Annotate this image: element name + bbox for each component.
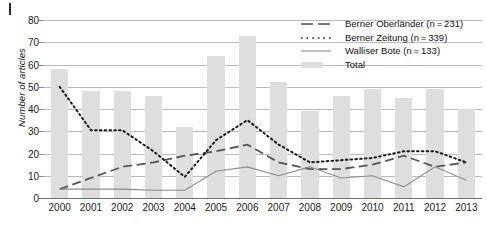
x-tick-label: 2006 <box>236 202 258 213</box>
x-tick-label: 2012 <box>424 202 446 213</box>
y-tick-label: 10 <box>28 170 39 181</box>
legend-item-walliser-bote: Walliser Bote (n = 133) <box>283 44 479 58</box>
x-tick-label: 2000 <box>49 202 71 213</box>
x-tick-label: 2009 <box>330 202 352 213</box>
x-tick-label: 2011 <box>393 202 415 213</box>
x-tick-label: 2010 <box>361 202 383 213</box>
x-axis-line <box>38 198 482 199</box>
legend-item-berner-oberlaender: Berner Oberländer (n = 231) <box>283 17 479 31</box>
crop-mark-icon <box>9 3 11 15</box>
x-tick-label: 2007 <box>268 202 290 213</box>
dotted-line-key <box>283 31 339 45</box>
chart-figure: Number of articles 01020304050607080 200… <box>0 0 487 240</box>
legend-item-total: Total <box>283 58 479 72</box>
legend-label: Berner Oberländer (n = 231) <box>339 18 463 29</box>
x-tick-label: 2013 <box>455 202 477 213</box>
solid-line-key <box>283 44 339 58</box>
y-tick-label: 80 <box>28 15 39 26</box>
long-dash-line-key <box>283 17 339 31</box>
line-series <box>60 145 467 190</box>
x-tick-label: 2003 <box>142 202 164 213</box>
y-axis-label: Number of articles <box>16 23 27 153</box>
y-tick-label: 30 <box>28 126 39 137</box>
y-tick-label: 20 <box>28 148 39 159</box>
legend-item-berner-zeitung: Berner Zeitung (n = 339) <box>283 31 479 45</box>
line-series <box>60 87 467 177</box>
bar-swatch-key <box>283 58 339 72</box>
legend-label: Berner Zeitung (n = 339) <box>339 32 447 43</box>
y-tick-label: 50 <box>28 81 39 92</box>
y-tick-label: 60 <box>28 59 39 70</box>
x-tick-label: 2002 <box>111 202 133 213</box>
y-tick-label: 40 <box>28 104 39 115</box>
y-tick-label: 70 <box>28 37 39 48</box>
x-tick-label: 2008 <box>299 202 321 213</box>
x-tick-label: 2001 <box>80 202 102 213</box>
x-tick-label: 2005 <box>205 202 227 213</box>
x-tick-label: 2004 <box>174 202 196 213</box>
line-series <box>60 167 467 190</box>
chart-legend: Berner Oberländer (n = 231) Berner Zeitu… <box>283 17 479 71</box>
legend-label: Total <box>339 59 365 70</box>
legend-label: Walliser Bote (n = 133) <box>339 45 440 56</box>
